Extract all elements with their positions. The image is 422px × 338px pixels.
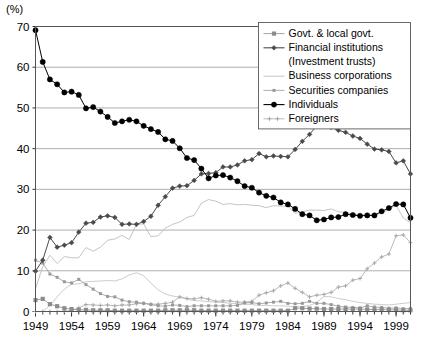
data-point xyxy=(214,299,218,303)
data-point xyxy=(92,288,95,291)
data-point xyxy=(134,309,138,313)
data-point xyxy=(293,206,298,211)
data-point xyxy=(250,309,254,313)
y-tick-label: 50 xyxy=(17,102,30,114)
data-point xyxy=(56,276,59,279)
data-point xyxy=(112,120,117,125)
data-point xyxy=(322,302,325,305)
data-point xyxy=(184,155,189,160)
data-point xyxy=(84,283,87,286)
data-point xyxy=(63,280,66,283)
data-point xyxy=(286,302,289,305)
data-point xyxy=(235,163,240,168)
data-point xyxy=(285,202,290,207)
data-point xyxy=(177,146,182,151)
data-point xyxy=(76,92,81,97)
y-axis-tick-labels: 010203040506070 xyxy=(17,21,36,318)
data-point xyxy=(258,302,261,305)
data-point xyxy=(222,304,225,307)
data-point xyxy=(98,109,103,114)
data-point xyxy=(271,195,276,200)
data-point xyxy=(329,215,334,220)
data-point xyxy=(48,273,51,276)
x-tick-label: 1959 xyxy=(95,320,121,332)
data-point xyxy=(113,295,116,298)
legend-label: Govt. & local govt. xyxy=(289,27,374,39)
data-point xyxy=(336,214,341,219)
data-point xyxy=(134,119,139,124)
legend-item-investment-trusts[interactable]: (Investment trusts) xyxy=(289,55,376,67)
data-point xyxy=(293,306,297,310)
share-ownership-line-chart: (%) 010203040506070 19491954195919641969… xyxy=(0,0,422,338)
data-point xyxy=(106,295,109,298)
data-point xyxy=(386,205,391,210)
data-point xyxy=(62,306,66,310)
data-point xyxy=(135,301,138,304)
data-point xyxy=(387,252,391,256)
data-point xyxy=(155,129,160,134)
y-tick-label: 60 xyxy=(17,61,30,73)
legend-label: Foreigners xyxy=(289,112,339,124)
data-point xyxy=(199,309,203,313)
data-point xyxy=(177,184,182,189)
data-point xyxy=(321,217,326,222)
data-point xyxy=(84,303,88,307)
data-point xyxy=(213,173,218,178)
x-tick-label: 1984 xyxy=(275,320,301,332)
data-point xyxy=(62,90,67,95)
data-point xyxy=(365,307,369,311)
y-tick-label: 0 xyxy=(23,306,29,318)
data-point xyxy=(91,105,96,110)
data-point xyxy=(264,193,269,198)
data-point xyxy=(163,137,168,142)
data-point xyxy=(394,234,398,238)
data-point xyxy=(178,304,181,307)
data-point xyxy=(394,160,399,165)
data-point xyxy=(170,138,175,143)
data-point xyxy=(235,179,240,184)
data-point xyxy=(366,304,369,307)
data-point xyxy=(300,290,304,294)
y-tick-label: 20 xyxy=(17,224,30,236)
data-point xyxy=(286,309,290,313)
data-point xyxy=(314,218,319,223)
data-point xyxy=(350,212,355,217)
data-point xyxy=(343,212,348,217)
data-point xyxy=(40,59,45,64)
x-tick-label: 1949 xyxy=(23,320,49,332)
data-point xyxy=(401,158,406,163)
data-point xyxy=(242,184,247,189)
series-financial-institutions xyxy=(33,122,413,274)
data-point xyxy=(357,213,362,218)
data-point xyxy=(91,303,95,307)
data-point xyxy=(55,304,59,308)
y-tick-label: 30 xyxy=(17,183,30,195)
data-point xyxy=(77,278,80,281)
data-point xyxy=(200,304,203,307)
y-tick-label: 10 xyxy=(17,265,30,277)
data-point xyxy=(141,123,146,128)
data-point xyxy=(264,309,268,313)
y-tick-label: 70 xyxy=(17,21,30,33)
data-point xyxy=(386,149,391,154)
data-point xyxy=(271,154,276,159)
data-point xyxy=(229,304,232,307)
data-point xyxy=(343,130,348,135)
data-point xyxy=(55,82,60,87)
data-point xyxy=(199,296,203,300)
data-point xyxy=(192,157,197,162)
data-point xyxy=(206,309,210,313)
data-point xyxy=(264,154,269,159)
data-point xyxy=(127,222,132,227)
data-point xyxy=(47,77,52,82)
data-point xyxy=(206,176,211,181)
data-point xyxy=(336,307,340,311)
data-point xyxy=(343,307,347,311)
data-point xyxy=(401,202,406,207)
legend-label: Securities companies xyxy=(289,84,389,96)
x-tick-label: 1974 xyxy=(203,320,229,332)
legend-label: Financial institutions xyxy=(289,41,384,53)
data-point xyxy=(358,307,362,311)
data-point xyxy=(372,307,376,311)
data-point xyxy=(294,302,297,305)
